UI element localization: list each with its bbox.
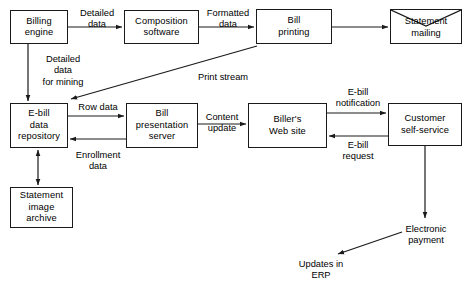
edge-label-print-stream: Print stream [188, 72, 258, 83]
node-billers-web-site-label: Biller's Web site [267, 114, 308, 137]
node-bill-presentation-server[interactable]: Bill presentation server [126, 103, 198, 148]
node-customer-self-service[interactable]: Customer self-service [388, 103, 462, 146]
flowchart-diagram: Billing engine Composition software Bill… [0, 0, 472, 293]
node-statement-image-archive-label: Statement image archive [18, 190, 65, 224]
node-bill-presentation-server-label: Bill presentation server [134, 108, 190, 142]
node-composition-software-label: Composition software [133, 16, 190, 39]
edge-label-ebill-request: E-bill request [330, 140, 386, 163]
edge-label-updates-in-erp: Updates in ERP [285, 259, 357, 282]
edge-label-detailed-data: Detailed data [70, 8, 124, 31]
node-ebill-data-repository[interactable]: E-bill data repository [10, 103, 68, 148]
node-statement-mailing-label: Statement mailing [391, 16, 461, 39]
node-composition-software[interactable]: Composition software [124, 10, 199, 44]
edge-label-detailed-data-for-mining: Detailed data for mining [32, 54, 94, 88]
edge-label-content-update: Content update [196, 112, 248, 135]
node-ebill-data-repository-label: E-bill data repository [16, 108, 62, 142]
node-statement-image-archive[interactable]: Statement image archive [10, 187, 73, 228]
node-billers-web-site[interactable]: Biller's Web site [248, 103, 327, 148]
node-customer-self-service-label: Customer self-service [399, 113, 451, 136]
edge-label-ebill-notification: E-bill notification [327, 87, 389, 110]
node-billing-engine[interactable]: Billing engine [10, 10, 68, 44]
edge-label-row-data: Row data [72, 102, 124, 113]
edge-label-enrollment-data: Enrollment data [64, 150, 132, 173]
edge-label-formatted-data: Formatted data [199, 8, 257, 31]
edge-label-electronic-payment: Electronic payment [390, 224, 462, 247]
node-statement-mailing[interactable]: Statement mailing [390, 9, 462, 44]
node-billing-engine-label: Billing engine [23, 16, 56, 39]
node-bill-printing[interactable]: Bill printing [256, 9, 332, 44]
node-bill-printing-label: Bill printing [276, 15, 311, 38]
